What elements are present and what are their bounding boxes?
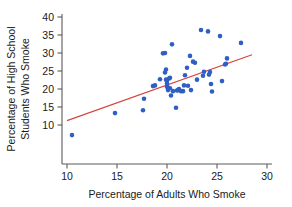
x-tick-label: 10	[61, 170, 73, 182]
data-points-group	[70, 28, 244, 138]
y-axis-ticks	[58, 17, 63, 125]
data-point	[181, 89, 186, 94]
data-point	[224, 62, 229, 67]
x-axis-ticks	[67, 164, 267, 169]
y-tick-label: 40	[42, 11, 54, 23]
x-axis-tick-labels: 10 15 20 25 30	[61, 170, 273, 182]
data-point	[113, 111, 118, 116]
data-point	[141, 108, 146, 113]
data-point	[163, 51, 168, 56]
data-point	[153, 83, 158, 88]
y-tick-label: 30	[42, 47, 54, 59]
data-point	[225, 56, 230, 61]
data-point	[171, 89, 176, 94]
data-point	[201, 73, 206, 78]
y-axis-title-line2: Students Who Smoke	[19, 38, 31, 140]
data-point	[169, 93, 174, 98]
data-point	[189, 88, 194, 93]
data-point	[185, 65, 190, 70]
data-point	[220, 79, 225, 84]
data-point	[164, 67, 169, 72]
data-point	[210, 89, 215, 94]
data-point	[170, 42, 175, 47]
y-axis-title-line1: Percentage of High School	[5, 27, 17, 152]
data-point	[218, 34, 223, 39]
data-point	[206, 29, 211, 34]
y-tick-label: 25	[42, 65, 54, 77]
data-point	[183, 73, 188, 78]
data-point	[193, 60, 198, 65]
data-point	[195, 77, 200, 82]
x-tick-label: 20	[161, 170, 173, 182]
y-tick-label: 10	[42, 119, 54, 131]
data-point	[186, 83, 191, 88]
data-point	[188, 54, 193, 59]
data-point	[239, 41, 244, 46]
data-point	[142, 96, 147, 101]
data-point	[168, 76, 173, 81]
data-point	[158, 77, 163, 82]
data-point	[182, 83, 187, 88]
data-point	[174, 105, 179, 110]
data-point	[209, 82, 214, 87]
x-tick-label: 30	[261, 170, 273, 182]
y-tick-label: 20	[42, 83, 54, 95]
x-tick-label: 15	[111, 170, 123, 182]
chart-canvas: 40 35 30 25 20 15 10 10 15 20 25 30 Perc…	[0, 0, 292, 207]
x-axis-title: Percentage of Adults Who Smoke	[88, 188, 245, 200]
y-tick-label: 15	[42, 101, 54, 113]
data-point	[202, 69, 207, 74]
y-tick-label: 35	[42, 29, 54, 41]
scatter-plot-figure: 40 35 30 25 20 15 10 10 15 20 25 30 Perc…	[0, 0, 292, 207]
data-point	[208, 70, 213, 75]
y-axis-tick-labels: 40 35 30 25 20 15 10	[42, 11, 54, 131]
data-point	[199, 28, 204, 33]
data-point	[70, 133, 75, 138]
x-tick-label: 25	[211, 170, 223, 182]
